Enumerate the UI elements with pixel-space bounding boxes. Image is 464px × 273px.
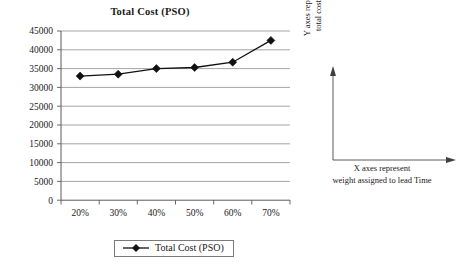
x-axis-note: X axes represent weight assigned to lead… xyxy=(300,163,464,186)
x-axis-note-line-1: X axes represent xyxy=(300,163,464,175)
gridlines xyxy=(61,31,290,181)
x-tick-label: 30% xyxy=(109,208,127,218)
x-tick-label: 60% xyxy=(224,208,242,218)
y-axis-labels: 45000 40000 35000 30000 25000 20000 1500… xyxy=(29,26,53,205)
data-point-marker xyxy=(191,64,199,72)
y-tick-label: 45000 xyxy=(29,26,53,36)
y-tick-label: 35000 xyxy=(29,64,53,74)
y-tick-label: 40000 xyxy=(29,45,53,55)
data-point-marker xyxy=(114,70,122,78)
data-point-marker xyxy=(152,65,160,73)
x-tick-label: 40% xyxy=(148,208,166,218)
y-axis-note-line-2: total cost in $ xyxy=(313,0,324,63)
y-axis-note-line-1: Y axes represent xyxy=(302,0,313,63)
y-tick-label: 25000 xyxy=(29,102,53,112)
figure-container: Total Cost (PSO) xyxy=(0,0,464,273)
y-tick-label: 15000 xyxy=(29,139,53,149)
y-axis-arrow-icon xyxy=(330,66,336,160)
y-tick-label: 30000 xyxy=(29,83,53,93)
x-axis-note-line-2: weight assigned to lead Time xyxy=(300,175,464,187)
y-tick-label: 0 xyxy=(48,196,53,206)
x-tick-label: 50% xyxy=(186,208,204,218)
x-tick-marks xyxy=(61,200,290,204)
y-axis-note: Y axes represent total cost in $ xyxy=(302,0,330,63)
data-point-marker xyxy=(267,36,275,44)
y-tick-label: 20000 xyxy=(29,120,53,130)
chart-block: Total Cost (PSO) xyxy=(0,0,300,273)
x-tick-label: 70% xyxy=(262,208,280,218)
axes-explanation-diagram: Y axes represent total cost in $ X axes … xyxy=(300,0,464,273)
series-markers xyxy=(76,36,275,80)
line-chart-plot: 45000 40000 35000 30000 25000 20000 1500… xyxy=(0,0,300,240)
y-tick-marks xyxy=(57,31,61,200)
y-tick-label: 10000 xyxy=(29,158,53,168)
x-axis-labels: 20% 30% 40% 50% 60% 70% xyxy=(71,208,279,218)
y-tick-label: 5000 xyxy=(34,177,53,187)
chart-legend: Total Cost (PSO) xyxy=(114,240,234,257)
x-tick-label: 20% xyxy=(71,208,89,218)
axis-lines xyxy=(61,31,290,200)
series-total-cost-pso xyxy=(76,36,275,80)
data-point-marker xyxy=(229,58,237,66)
legend-label: Total Cost (PSO) xyxy=(155,243,224,253)
legend-marker-icon xyxy=(123,243,149,253)
data-point-marker xyxy=(76,72,84,80)
series-line xyxy=(80,40,271,76)
